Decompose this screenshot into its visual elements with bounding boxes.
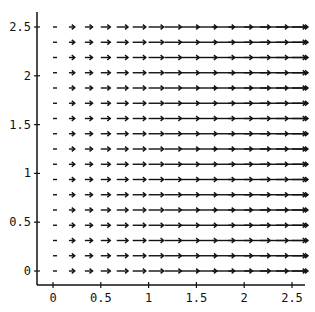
vector-arrows [53,25,308,274]
x-tick-label: 1 [145,291,152,305]
x-tick-label: 0.5 [90,291,112,305]
x-tick-label: 2 [241,291,248,305]
y-tick-label: 1.5 [9,118,31,132]
y-tick-label: 2 [24,69,31,83]
x-tick-label: 0 [49,291,56,305]
y-tick-label: 1 [24,166,31,180]
x-tick-label: 1.5 [186,291,208,305]
x-tick-label: 2.5 [281,291,303,305]
y-axis-ticks: 00.511.522.5 [9,20,40,278]
quiver-plot: 00.511.522.5 00.511.522.5 [0,0,315,312]
y-tick-label: 0 [24,264,31,278]
y-tick-label: 0.5 [9,215,31,229]
y-tick-label: 2.5 [9,20,31,34]
